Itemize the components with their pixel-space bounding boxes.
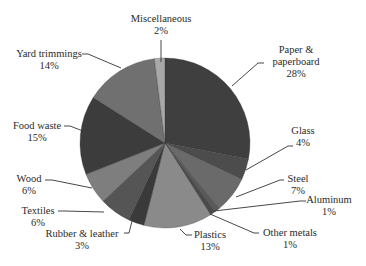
label-name: Textiles: [17, 205, 59, 217]
label-paper-paperboard: Paper & paperboard 28%: [264, 44, 328, 80]
label-percent: 3%: [38, 240, 126, 252]
label-percent: 28%: [264, 68, 328, 80]
leader-line-aluminum: [214, 201, 306, 211]
label-name: Other metals: [258, 227, 322, 239]
label-miscellaneous: Miscellaneous 2%: [127, 13, 195, 37]
label-plastics: Plastics 13%: [190, 229, 230, 253]
label-aluminum: Aluminum 1%: [304, 194, 354, 218]
label-glass: Glass 4%: [286, 125, 320, 149]
label-percent: 4%: [286, 137, 320, 149]
label-name: Aluminum: [304, 194, 354, 206]
label-percent: 15%: [8, 132, 66, 144]
leader-line-yard-trimmings: [82, 54, 121, 68]
label-name: Miscellaneous: [127, 13, 195, 25]
pie-slice-paper-paperboard: [165, 58, 250, 159]
leader-line-food-waste: [64, 126, 83, 131]
label-other-metals: Other metals 1%: [258, 227, 322, 251]
label-food-waste: Food waste 15%: [8, 120, 66, 144]
leader-line-paper: [232, 63, 264, 86]
label-wood: Wood 6%: [12, 173, 46, 197]
label-name: Steel: [283, 173, 313, 185]
leader-line-wood: [45, 180, 92, 188]
label-name: Wood: [12, 173, 46, 185]
label-name: Food waste: [8, 120, 66, 132]
label-percent: 14%: [14, 60, 84, 72]
label-name-line1: Paper &: [264, 44, 328, 56]
label-percent: 6%: [12, 185, 46, 197]
label-name: Glass: [286, 125, 320, 137]
label-percent: 1%: [258, 239, 322, 251]
label-rubber-leather: Rubber & leather 3%: [38, 228, 126, 252]
leader-line-glass: [246, 146, 293, 170]
label-yard-trimmings: Yard trimmings 14%: [14, 48, 84, 72]
label-name: Rubber & leather: [38, 228, 126, 240]
label-textiles: Textiles 6%: [17, 205, 59, 229]
label-percent: 6%: [17, 217, 59, 229]
label-name: Yard trimmings: [14, 48, 84, 60]
label-name: Plastics: [190, 229, 230, 241]
leader-line-textiles: [58, 211, 104, 212]
label-name-line2: paperboard: [264, 56, 328, 68]
label-percent: 2%: [127, 25, 195, 37]
pie-slices: [80, 58, 250, 228]
leader-line-steel: [236, 180, 284, 197]
label-percent: 1%: [304, 206, 354, 218]
label-percent: 13%: [190, 241, 230, 253]
